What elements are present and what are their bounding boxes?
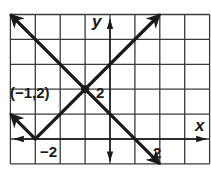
x-tick-label-neg2: −2 bbox=[40, 143, 57, 160]
intersection-point-marker bbox=[81, 85, 89, 93]
point-label: (−1,2) bbox=[10, 84, 50, 101]
y-axis-label: y bbox=[91, 12, 103, 31]
y-tick-label-2: 2 bbox=[96, 84, 104, 101]
x-tick-label-2: 2 bbox=[153, 144, 161, 161]
coordinate-graph: x y −2 2 2 (−1,2) bbox=[0, 0, 211, 178]
x-axis-label: x bbox=[194, 116, 206, 135]
